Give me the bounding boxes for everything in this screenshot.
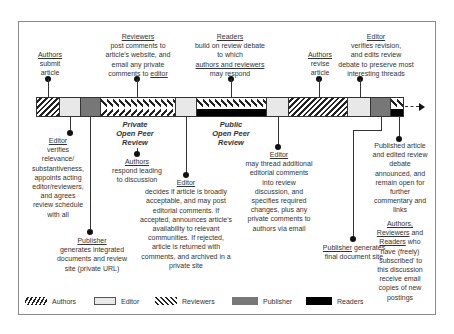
label-line: communities. If rejected,: [134, 233, 238, 242]
actor-name: Publisher: [323, 244, 352, 251]
connector-line: [186, 117, 187, 174]
segment-authors: [288, 97, 348, 117]
segment-editor: [175, 97, 197, 117]
connector-line: [70, 117, 71, 130]
label-line: Reviewers and: [370, 228, 430, 237]
label-published-article: Published article and edited review deba…: [370, 141, 430, 215]
label-line: and agrees: [26, 191, 90, 200]
label-editor-verifies-relevance: Editor verifies relevance/ substantivene…: [26, 136, 90, 219]
label-line: editorial comments. If: [134, 206, 238, 215]
label-line: postings: [370, 293, 430, 302]
label-line: debate: [370, 159, 430, 168]
continuation-arrow: [405, 106, 419, 107]
label-line: review schedule: [26, 200, 90, 209]
phase-line: Public: [206, 120, 256, 129]
connector-line: [353, 130, 354, 237]
segment-authors: [36, 97, 60, 117]
label-line: site (private URL): [54, 264, 130, 273]
label-line: specifies required: [236, 196, 322, 205]
label-editor-decides: Editor decides if article is broadly acc…: [134, 178, 238, 270]
label-text: comments to: [108, 70, 148, 77]
connector-line: [137, 79, 138, 97]
label-line: article is returned with: [134, 242, 238, 251]
legend-label: Publisher: [263, 298, 292, 305]
segment-editor: [347, 97, 371, 117]
label-line: accepted, announces article's: [134, 215, 238, 224]
label-line: changes, plus any: [236, 205, 322, 214]
label-line: private comments to: [236, 214, 322, 223]
phase-line: Open Peer: [206, 129, 256, 138]
label-line: comments, and archived in a: [134, 252, 238, 261]
actor-name: Authors: [104, 157, 170, 166]
authors-swatch-icon: [25, 297, 47, 305]
connector-line: [360, 79, 361, 97]
actor-name: Reviewers: [98, 32, 178, 41]
label-line: submit: [30, 59, 70, 68]
label-authors-submit: Authors submit article: [30, 50, 70, 78]
label-line: further: [370, 187, 430, 196]
legend-reviewers: Reviewers: [155, 294, 215, 308]
label-text: who: [408, 238, 421, 245]
legend-label: Readers: [337, 298, 363, 305]
label-editor-threads: Editor may thread additional editorial c…: [236, 150, 322, 233]
readers-band: [197, 109, 266, 116]
segment-editor: [59, 97, 81, 117]
phase-private-open-peer-review: Private Open Peer Review: [110, 120, 160, 148]
legend-label: Editor: [121, 298, 139, 305]
label-line: acceptable, and may post: [134, 196, 238, 205]
actor-name: Authors,: [370, 219, 430, 228]
label-line: and edited review: [370, 150, 430, 159]
reviewers-swatch-icon: [155, 297, 177, 305]
label-line: editorial comments: [236, 168, 322, 177]
label-line: with all: [26, 210, 90, 219]
label-editor-verifies-revision: Editor verifies revision, and edits revi…: [332, 32, 420, 78]
label-line: commentary and: [370, 196, 430, 205]
legend-editor: Editor: [94, 294, 139, 308]
label-line: receive email: [370, 274, 430, 283]
phase-public-open-peer-review: Public Open Peer Review: [206, 120, 256, 148]
legend-publisher: Publisher: [232, 294, 292, 308]
label-reviewers-post: Reviewers post comments to article's web…: [98, 32, 178, 78]
connector-dot: [87, 229, 93, 235]
actor-name: Readers: [379, 238, 405, 245]
label-line: announced, and: [370, 169, 430, 178]
label-line: and edits review: [332, 50, 420, 59]
phase-line: Private: [110, 120, 160, 129]
actor-name: authors and reviewers: [186, 60, 274, 69]
connector-line: [231, 79, 232, 97]
label-line: generates integrated: [54, 245, 130, 254]
connector-line: [353, 130, 382, 131]
label-line: relevance/: [26, 154, 90, 163]
label-line: verifies: [26, 145, 90, 154]
label-line: substantiveness,: [26, 164, 90, 173]
actor-name: Editor: [236, 150, 322, 159]
label-line: email any private: [98, 60, 178, 69]
label-line: authors via email: [236, 224, 322, 233]
phase-line: Review: [110, 138, 160, 147]
label-line: documents and review: [54, 254, 130, 263]
label-line: this discussion: [370, 265, 430, 274]
label-publisher-generates-integrated: Publisher generates integrated documents…: [54, 236, 130, 273]
actor-name: Readers: [186, 32, 274, 41]
label-readers-build: Readers build on review debate to which …: [186, 32, 274, 78]
label-line: have (freely): [370, 247, 430, 256]
segment-reviewers-private: [100, 97, 176, 117]
connector-line: [48, 79, 49, 97]
label-line: private site: [134, 261, 238, 270]
label-line: to which: [186, 50, 274, 59]
segment-reviewers-readers-public: [196, 97, 267, 117]
phase-line: Open Peer: [110, 129, 160, 138]
actor-name: Publisher: [54, 236, 130, 245]
label-line: Published article: [370, 141, 430, 150]
label-line: debate to preserve most: [332, 60, 420, 69]
legend-label: Reviewers: [182, 298, 215, 305]
connector-line: [90, 117, 91, 229]
publisher-swatch-icon: [232, 297, 258, 305]
segment-publisher: [80, 97, 101, 117]
label-line: discussion, and: [236, 187, 322, 196]
label-line: build on review debate: [186, 41, 274, 50]
label-line: respond leading: [104, 166, 170, 175]
label-line: remain open for: [370, 178, 430, 187]
label-line: interesting threads: [332, 69, 420, 78]
actor-name: Reviewers: [377, 229, 410, 236]
